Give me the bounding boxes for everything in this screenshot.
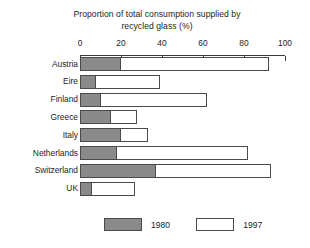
legend-label-1997: 1997	[243, 220, 262, 230]
bar-row-austria	[80, 57, 285, 71]
category-label-greece: Greece	[51, 112, 78, 123]
x-tick-label-0: 0	[78, 38, 83, 48]
x-tick-label-40: 40	[157, 38, 166, 48]
legend-swatch-1980	[104, 218, 142, 231]
x-tick-label-60: 60	[198, 38, 207, 48]
bar-row-uk	[80, 182, 285, 196]
bar-row-netherlands	[80, 146, 285, 160]
category-label-finland: Finland	[51, 94, 78, 105]
recycled-glass-bar-chart: Proportion of total consumption supplied…	[0, 0, 310, 248]
bar-row-greece	[80, 110, 285, 124]
legend-item-1980: 1980	[104, 218, 170, 231]
bar-segment-1980-netherlands	[80, 146, 117, 160]
category-label-switzerland: Switzerland	[35, 165, 78, 176]
x-tick-mark-100	[285, 56, 286, 61]
bar-segment-1980-switzerland	[80, 164, 156, 178]
chart-legend: 1980 1997	[104, 217, 262, 232]
bar-segment-1980-eire	[80, 75, 96, 89]
x-tick-label-20: 20	[116, 38, 125, 48]
legend-label-1980: 1980	[151, 220, 170, 230]
category-label-eire: Eire	[63, 76, 78, 87]
plot-area: 020406080100 AustriaEireFinlandGreeceIta…	[0, 0, 310, 248]
category-label-netherlands: Netherlands	[33, 148, 78, 159]
legend-swatch-1997	[196, 218, 234, 231]
x-tick-label-100: 100	[278, 38, 292, 48]
category-label-austria: Austria	[52, 59, 78, 70]
category-label-italy: Italy	[63, 130, 78, 141]
bar-segment-1980-finland	[80, 93, 101, 107]
bar-segment-1980-greece	[80, 110, 111, 124]
bar-row-italy	[80, 128, 285, 142]
legend-item-1997: 1997	[196, 218, 262, 231]
x-axis-line	[80, 55, 285, 56]
x-tick-label-80: 80	[239, 38, 248, 48]
bar-segment-1980-italy	[80, 128, 121, 142]
category-label-uk: UK	[66, 183, 78, 194]
bar-row-eire	[80, 75, 285, 89]
bar-row-switzerland	[80, 164, 285, 178]
bar-row-finland	[80, 93, 285, 107]
bar-segment-1980-uk	[80, 182, 92, 196]
bar-segment-1980-austria	[80, 57, 121, 71]
